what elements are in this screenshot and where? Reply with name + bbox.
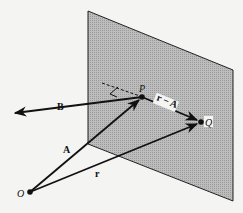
point-o [27,189,33,195]
label-vector-b: B [57,101,64,112]
point-q [198,119,204,125]
label-vector-r: r [95,168,100,179]
vector-plane-diagram: O P Q B A r r − A [0,0,243,213]
label-point-p: P [138,83,145,94]
label-origin: O [17,188,24,199]
point-p [139,94,145,100]
label-vector-a: A [63,144,71,155]
label-point-q: Q [205,117,213,128]
